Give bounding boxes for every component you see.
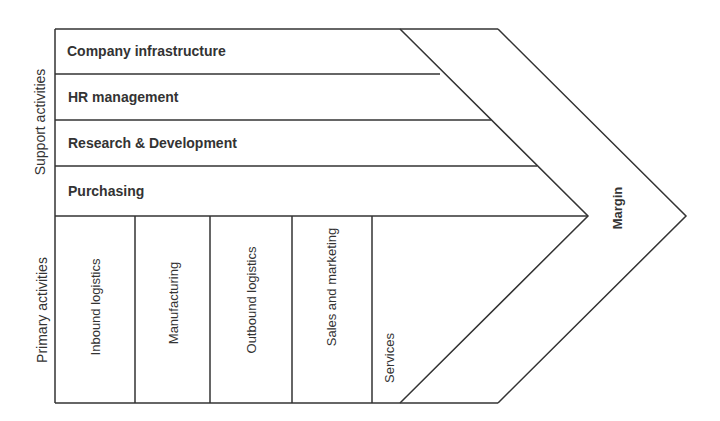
support-item-purchasing: Purchasing xyxy=(68,183,144,199)
support-item-hr-management: HR management xyxy=(68,89,178,105)
support-item-research-development: Research & Development xyxy=(68,135,237,151)
primary-item-manufacturing: Manufacturing xyxy=(166,262,181,344)
support-activities-label: Support activities xyxy=(32,69,48,176)
support-item-company-infrastructure: Company infrastructure xyxy=(67,43,226,59)
margin-label: Margin xyxy=(610,187,625,230)
primary-item-inbound-logistics: Inbound logistics xyxy=(88,259,103,356)
primary-item-services: Services xyxy=(382,333,397,383)
primary-item-outbound-logistics: Outbound logistics xyxy=(244,247,259,354)
primary-item-sales-and-marketing: Sales and marketing xyxy=(324,228,339,347)
primary-activities-label: Primary activities xyxy=(34,257,50,363)
